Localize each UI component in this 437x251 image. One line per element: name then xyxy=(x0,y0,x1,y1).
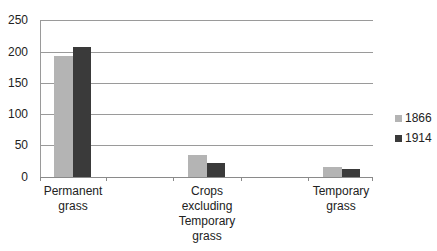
y-tick-label: 150 xyxy=(0,77,28,89)
x-tick xyxy=(241,177,242,181)
y-tick-label: 50 xyxy=(0,139,28,151)
gridline xyxy=(40,20,373,21)
y-tick-label: 0 xyxy=(0,171,28,183)
x-tick xyxy=(372,177,373,181)
x-category-label: Crops excluding Temporary grass xyxy=(157,184,257,244)
x-tick xyxy=(106,177,107,181)
y-tick-label: 250 xyxy=(0,14,28,26)
label-line: grass xyxy=(23,199,123,214)
bar-1866 xyxy=(323,167,342,177)
x-axis-line xyxy=(40,177,373,178)
y-tick-label: 200 xyxy=(0,46,28,58)
label-line: Temporary xyxy=(291,184,391,199)
label-line: Temporary xyxy=(157,214,257,229)
label-line: excluding xyxy=(157,199,257,214)
bar-1866 xyxy=(54,56,73,177)
legend-item-1866: 1866 xyxy=(395,111,432,125)
legend-item-1914: 1914 xyxy=(395,131,432,145)
bar-chart: 250 200 150 100 50 0 Permanent grass Cro… xyxy=(0,0,437,251)
label-line: Crops xyxy=(157,184,257,199)
bar-1914 xyxy=(73,47,92,177)
label-line: Permanent xyxy=(23,184,123,199)
x-tick xyxy=(308,177,309,181)
legend-swatch xyxy=(395,115,402,122)
bar-1866 xyxy=(188,155,207,177)
label-line: grass xyxy=(157,229,257,244)
x-category-label: Permanent grass xyxy=(23,184,123,214)
legend-label: 1866 xyxy=(405,111,432,125)
x-tick xyxy=(40,177,41,181)
legend-swatch xyxy=(395,135,402,142)
legend-label: 1914 xyxy=(405,131,432,145)
label-line: grass xyxy=(291,199,391,214)
bar-1914 xyxy=(342,169,361,177)
y-axis-line xyxy=(40,20,41,177)
bar-1914 xyxy=(207,163,226,177)
x-category-label: Temporary grass xyxy=(291,184,391,214)
y-tick-label: 100 xyxy=(0,108,28,120)
x-tick xyxy=(173,177,174,181)
